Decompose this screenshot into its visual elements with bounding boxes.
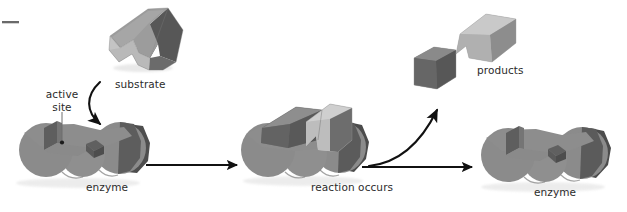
product-wedge <box>456 14 516 62</box>
enzyme-substrate-complex <box>241 104 369 186</box>
active-site-pointer-dot <box>60 140 64 144</box>
product-release-arrow <box>369 110 437 166</box>
label-active-site: active site <box>46 88 79 113</box>
label-substrate: substrate <box>115 78 166 90</box>
label-enzyme-right: enzyme <box>534 186 576 198</box>
enzyme-shape-left <box>16 112 150 188</box>
label-enzyme-left: enzyme <box>86 181 128 193</box>
enzyme-shape-right <box>481 126 611 192</box>
label-active-site-line2: site <box>52 101 71 113</box>
substrate-shape <box>109 8 183 72</box>
enzyme-reaction-diagram: active site substrate enzyme reaction oc… <box>0 0 627 212</box>
label-reaction-occurs: reaction occurs <box>311 181 393 193</box>
label-active-site-line1: active <box>46 88 79 100</box>
label-products: products <box>477 64 524 76</box>
product-cube <box>414 47 456 89</box>
top-left-dash <box>2 21 19 23</box>
binding-arrow <box>89 82 100 124</box>
